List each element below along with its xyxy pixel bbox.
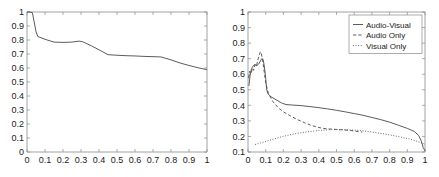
series-visual-only <box>255 130 425 145</box>
y-tick-label: 0.6 <box>11 63 24 73</box>
y-tick-label: 0.6 <box>232 69 245 79</box>
left-chart-axes-frame <box>27 12 207 152</box>
left-chart-svg: 00.10.20.30.40.50.60.70.80.9100.10.20.30… <box>0 0 215 177</box>
x-tick-label: 0.5 <box>330 155 343 165</box>
figure-container: 00.10.20.30.40.50.60.70.80.9100.10.20.30… <box>0 0 439 177</box>
x-tick-label: 0.2 <box>57 155 70 165</box>
x-tick-label: 0.9 <box>183 155 196 165</box>
x-tick-label: 0.6 <box>129 155 142 165</box>
x-tick-label: 1 <box>204 155 209 165</box>
y-tick-label: 0.4 <box>11 91 24 101</box>
x-tick-label: 0.5 <box>111 155 124 165</box>
series-audio-only <box>249 52 363 132</box>
x-tick-label: 0.6 <box>348 155 361 165</box>
left-chart-ticklabels: 00.10.20.30.40.50.60.70.80.9100.10.20.30… <box>11 7 209 165</box>
x-tick-label: 0.7 <box>366 155 379 165</box>
legend: Audio-VisualAudio OnlyVisual Only <box>349 15 422 54</box>
x-tick-label: 0.4 <box>93 155 106 165</box>
y-tick-label: 0.9 <box>11 21 24 31</box>
y-tick-label: 0.2 <box>11 119 24 129</box>
x-tick-label: 0.8 <box>165 155 178 165</box>
left-chart-ticks <box>27 12 207 152</box>
legend-label-0: Audio-Visual <box>366 21 411 30</box>
y-tick-label: 0.7 <box>11 49 24 59</box>
y-tick-label: 1 <box>19 7 24 17</box>
x-tick-label: 0.8 <box>383 155 396 165</box>
x-tick-label: 0.3 <box>75 155 88 165</box>
chart-panel-left: 00.10.20.30.40.50.60.70.80.9100.10.20.30… <box>0 0 215 177</box>
right-chart-series <box>249 52 425 151</box>
y-tick-label: 0.1 <box>11 133 24 143</box>
y-tick-label: 1 <box>240 7 245 17</box>
x-tick-label: 0.3 <box>295 155 308 165</box>
y-tick-label: 0.8 <box>11 35 24 45</box>
y-tick-label: 0.2 <box>232 132 245 142</box>
x-tick-label: 1 <box>422 155 427 165</box>
y-tick-label: 0 <box>19 147 24 157</box>
x-tick-label: 0.1 <box>39 155 52 165</box>
y-tick-label: 0.7 <box>232 54 245 64</box>
x-tick-label: 0.7 <box>147 155 160 165</box>
y-tick-label: 0.3 <box>232 116 245 126</box>
y-tick-label: 0.1 <box>232 147 245 157</box>
legend-label-1: Audio Only <box>366 31 405 40</box>
y-tick-label: 0.9 <box>232 23 245 33</box>
chart-panel-right: 00.10.20.30.40.50.60.70.80.910.10.20.30.… <box>215 0 439 177</box>
y-tick-label: 0.3 <box>11 105 24 115</box>
x-tick-label: 0.1 <box>259 155 272 165</box>
x-tick-label: 0 <box>24 155 29 165</box>
y-tick-label: 0.5 <box>232 85 245 95</box>
x-tick-label: 0.2 <box>277 155 290 165</box>
left-chart-series <box>27 12 207 70</box>
legend-label-2: Visual Only <box>366 42 406 51</box>
y-tick-label: 0.5 <box>11 77 24 87</box>
x-tick-label: 0 <box>245 155 250 165</box>
right-chart-svg: 00.10.20.30.40.50.60.70.80.910.10.20.30.… <box>215 0 439 177</box>
series-curve <box>27 12 207 70</box>
x-tick-label: 0.4 <box>313 155 326 165</box>
y-tick-label: 0.4 <box>232 101 245 111</box>
y-tick-label: 0.8 <box>232 38 245 48</box>
x-tick-label: 0.9 <box>401 155 414 165</box>
